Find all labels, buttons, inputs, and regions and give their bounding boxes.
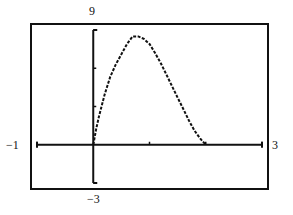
ymax-label: 9 xyxy=(89,5,95,17)
ymin-label: −3 xyxy=(87,193,100,205)
axes xyxy=(37,30,262,183)
xmax-label: 3 xyxy=(272,139,278,151)
graph-window xyxy=(0,0,293,215)
function-curve xyxy=(93,36,206,144)
xmin-label: −1 xyxy=(6,139,19,151)
window-frame xyxy=(31,24,268,189)
